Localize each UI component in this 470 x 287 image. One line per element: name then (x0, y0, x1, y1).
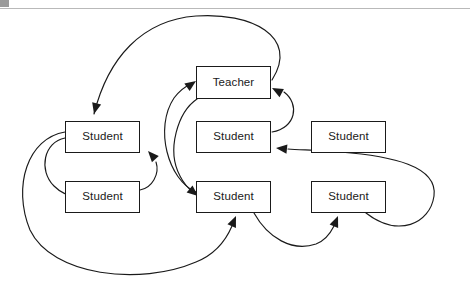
node-teacher[interactable]: Teacher (196, 66, 271, 99)
node-student_6[interactable]: Student (311, 181, 386, 213)
node-label: Student (213, 191, 253, 203)
arrowhead-student_4-to-student_1 (145, 148, 159, 162)
arrowhead-student_6-to-student_2 (276, 143, 288, 153)
node-label: Student (82, 191, 122, 203)
arrowhead-teacher-to-student_1 (90, 102, 102, 115)
edge-teacher-to-student_5 (174, 99, 197, 192)
diagram-canvas: TeacherStudentStudentStudentStudentStude… (0, 0, 470, 287)
node-label: Student (328, 131, 368, 143)
edge-student_2-to-teacher (272, 92, 294, 132)
node-student_5[interactable]: Student (196, 181, 271, 213)
arrowhead-student_2-to-teacher (270, 84, 284, 97)
arrowhead-student_5-to-student_6 (330, 214, 343, 228)
node-student_4[interactable]: Student (65, 181, 140, 213)
node-student_2[interactable]: Student (196, 121, 271, 153)
edge-student_5-to-student_6 (254, 213, 334, 246)
node-student_1[interactable]: Student (65, 121, 140, 153)
node-label: Student (328, 191, 368, 203)
node-student_3[interactable]: Student (311, 121, 386, 153)
node-label: Student (82, 131, 122, 143)
node-label: Teacher (213, 77, 255, 89)
arrowhead-student_1-to-student_5 (227, 214, 240, 228)
edge-teacher-to-student_1 (94, 16, 280, 114)
edge-student_4-to-student_1 (140, 162, 157, 190)
node-label: Student (213, 131, 253, 143)
